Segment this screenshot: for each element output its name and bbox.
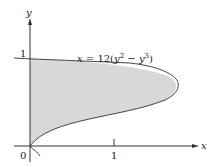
plot: y x 1 1 0 x = 12(y2 − y3) bbox=[0, 0, 211, 167]
y-axis-label: y bbox=[25, 7, 32, 18]
x-axis-arrow-icon bbox=[192, 144, 199, 148]
x-tick-label: 1 bbox=[111, 150, 117, 161]
equation-label: x = 12(y2 − y3) bbox=[77, 52, 153, 64]
origin-label: 0 bbox=[20, 150, 26, 161]
x-axis-label: x bbox=[201, 140, 207, 151]
y-axis-arrow-icon bbox=[28, 18, 32, 25]
shaded-region bbox=[30, 59, 176, 146]
y-tick-label: 1 bbox=[20, 48, 26, 59]
